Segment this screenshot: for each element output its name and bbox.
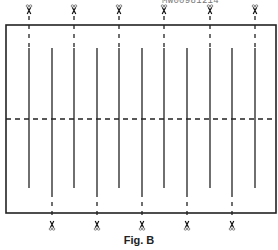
figure-caption: Fig. B: [0, 234, 278, 246]
cut-diagram: [0, 0, 278, 250]
scissors-icon: [49, 221, 55, 230]
scissors-icon: [26, 5, 32, 14]
scissors-icon: [71, 5, 77, 14]
scissors-icon: [139, 221, 145, 230]
scissors-icon: [229, 221, 235, 230]
scissors-icon: [161, 5, 167, 14]
scissors-icon: [94, 221, 100, 230]
scissors-icon: [252, 5, 258, 14]
scissors-icon: [207, 5, 213, 14]
scissors-icon: [184, 221, 190, 230]
scissors-icon: [116, 5, 122, 14]
